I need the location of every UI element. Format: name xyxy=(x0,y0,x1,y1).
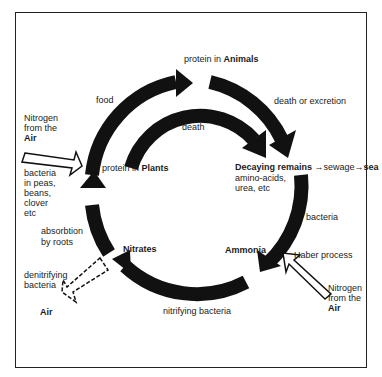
node-plants: protein in Plants xyxy=(102,163,169,173)
node-air-bottom: Air xyxy=(40,307,53,317)
left-bacteria-1: bacteria xyxy=(24,168,56,178)
edge-denitrifying-2: bacteria xyxy=(24,280,56,290)
edge-food: food xyxy=(96,95,114,105)
node-animals-bold: Animals xyxy=(224,54,259,64)
left-nitrogen-air: Air xyxy=(24,133,37,143)
node-decaying-sewage: →sewage→ xyxy=(312,162,364,172)
node-plants-bold: Plants xyxy=(142,163,169,173)
node-ammonia: Ammonia xyxy=(225,245,266,255)
edge-denitrifying-1: denitrifying xyxy=(24,270,68,280)
left-nitrogen-2: from the xyxy=(24,123,57,133)
edge-haber-process: Haber process xyxy=(294,250,353,260)
dashed-arrow-denitrifying xyxy=(62,258,108,302)
node-nitrates: Nitrates xyxy=(123,244,157,254)
arc-nitrifying xyxy=(125,266,246,294)
arrowhead-plants xyxy=(80,171,106,188)
edge-nitrifying-bacteria: nitrifying bacteria xyxy=(163,306,231,316)
arrowhead-animals xyxy=(176,69,193,97)
edge-absorbtion-1: absorbtion xyxy=(41,226,83,236)
node-decaying-line2: amino-acids, xyxy=(235,173,286,183)
edge-death: death xyxy=(182,122,205,132)
node-animals: protein in Animals xyxy=(184,54,259,64)
left-bacteria-3: beans, xyxy=(24,188,51,198)
node-decaying: Decaying remains →sewage→sea xyxy=(235,162,379,172)
arc-absorbtion xyxy=(92,205,109,253)
node-animals-prefix: protein in xyxy=(184,54,224,64)
node-decaying-sea: sea xyxy=(364,162,379,172)
node-decaying-line3: urea, etc xyxy=(235,183,270,193)
edge-bacteria: bacteria xyxy=(306,212,338,222)
right-nitrogen-1: Nitrogen xyxy=(328,283,362,293)
left-bacteria-2: in peas, xyxy=(24,178,56,188)
left-bacteria-4: clover xyxy=(24,198,48,208)
node-decaying-bold: Decaying remains xyxy=(235,162,312,172)
left-bacteria-5: etc xyxy=(24,208,36,218)
left-nitrogen-1: Nitrogen xyxy=(24,113,58,123)
right-nitrogen-2: from the xyxy=(328,293,361,303)
edge-absorbtion-2: by roots xyxy=(41,237,73,247)
right-nitrogen-air: Air xyxy=(328,303,341,313)
edge-death-or-excretion: death or excretion xyxy=(274,96,346,106)
node-plants-prefix: protein in xyxy=(102,163,142,173)
